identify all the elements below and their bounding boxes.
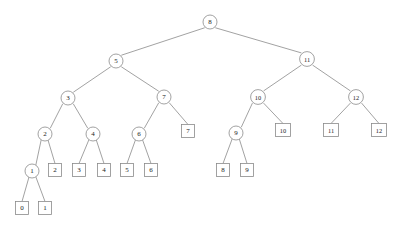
node-label: 12 <box>376 127 382 134</box>
tree-leaf-12-l12[interactable]: 12 <box>372 124 387 137</box>
tree-leaf-7-l7[interactable]: 7 <box>182 125 195 138</box>
node-label: 7 <box>186 127 190 135</box>
node-label: 7 <box>162 93 166 101</box>
tree-edge-n3-to-n2 <box>50 104 63 129</box>
tree-edge-n5-to-n7 <box>121 67 159 92</box>
tree-node-8-n8[interactable]: 8 <box>203 15 217 29</box>
tree-edge-n8-to-n5 <box>121 28 205 56</box>
node-label: 5 <box>125 166 129 174</box>
tree-node-7-n7[interactable]: 7 <box>157 90 171 104</box>
tree-leaf-10-l10[interactable]: 10 <box>276 124 291 137</box>
node-label: 8 <box>208 18 212 26</box>
tree-edge-n6-to-l6 <box>143 140 152 164</box>
tree-edge-n9-to-l8 <box>223 139 232 164</box>
node-label: 2 <box>53 166 57 174</box>
tree-node-11-n11[interactable]: 11 <box>300 52 315 67</box>
tree-leaf-4-l4[interactable]: 4 <box>98 164 111 177</box>
tree-edge-n7-to-n6 <box>144 103 159 129</box>
tree-node-2-n2[interactable]: 2 <box>38 127 52 141</box>
node-label: 4 <box>91 130 95 138</box>
tree-leaf-11-l11[interactable]: 11 <box>324 124 339 137</box>
tree-leaf-6-l6[interactable]: 6 <box>145 164 158 177</box>
node-label: 9 <box>234 129 238 137</box>
node-label: 6 <box>137 130 141 138</box>
node-label: 11 <box>328 127 334 134</box>
tree-leaf-9-l9[interactable]: 9 <box>241 164 254 177</box>
tree-leaf-5-l5[interactable]: 5 <box>121 164 134 177</box>
node-label: 11 <box>304 56 310 63</box>
tree-node-1-n1[interactable]: 1 <box>25 164 39 178</box>
tree-edge-n4-to-l4 <box>96 140 104 164</box>
tree-edge-n12-to-l12 <box>362 103 379 123</box>
tree-edge-n9-to-l9 <box>239 139 247 164</box>
tree-edge-n11-to-n12 <box>313 65 351 91</box>
node-label: 12 <box>353 94 359 101</box>
node-label: 8 <box>221 166 225 174</box>
tree-edge-n2-to-n1 <box>36 140 41 166</box>
node-layer: 8511371012246917101112234568901 <box>16 15 387 215</box>
binary-tree-figure: 8511371012246917101112234568901 <box>0 0 399 225</box>
node-label: 3 <box>66 94 70 102</box>
tree-node-12-n12[interactable]: 12 <box>349 90 364 105</box>
tree-canvas: 8511371012246917101112234568901 <box>0 0 399 225</box>
tree-edge-n11-to-n10 <box>264 65 302 91</box>
tree-node-9-n9[interactable]: 9 <box>229 126 243 140</box>
tree-edge-n1-to-l1 <box>36 177 45 202</box>
tree-edge-n1-to-l0 <box>22 177 29 202</box>
node-label: 2 <box>43 130 47 138</box>
tree-leaf-1-l1[interactable]: 1 <box>39 202 52 215</box>
tree-edge-n6-to-l5 <box>127 140 136 164</box>
node-label: 0 <box>20 204 24 212</box>
tree-edge-n7-to-l7 <box>169 103 188 125</box>
tree-leaf-8-l8[interactable]: 8 <box>217 164 230 177</box>
node-label: 3 <box>77 166 81 174</box>
node-label: 1 <box>43 204 47 212</box>
tree-node-4-n4[interactable]: 4 <box>86 127 100 141</box>
tree-edge-n4-to-l3 <box>79 140 89 164</box>
node-label: 6 <box>149 166 153 174</box>
tree-edge-n12-to-l11 <box>331 103 350 123</box>
node-label: 5 <box>114 57 118 65</box>
tree-node-6-n6[interactable]: 6 <box>132 127 146 141</box>
tree-node-3-n3[interactable]: 3 <box>61 91 75 105</box>
tree-edge-n5-to-n3 <box>73 67 111 93</box>
node-label: 4 <box>102 166 106 174</box>
tree-node-10-n10[interactable]: 10 <box>251 90 266 105</box>
node-label: 1 <box>30 167 34 175</box>
tree-leaf-3-l3[interactable]: 3 <box>73 164 86 177</box>
tree-leaf-0-l0[interactable]: 0 <box>16 202 29 215</box>
tree-node-5-n5[interactable]: 5 <box>109 54 123 68</box>
tree-edge-n10-to-n9 <box>241 103 252 127</box>
node-label: 9 <box>245 166 249 174</box>
tree-edge-n10-to-l10 <box>264 103 283 123</box>
tree-leaf-2-l2[interactable]: 2 <box>49 164 62 177</box>
node-label: 10 <box>280 127 286 134</box>
tree-edge-n8-to-n11 <box>215 28 301 53</box>
tree-edge-n3-to-n4 <box>73 104 88 129</box>
tree-edge-n2-to-l2 <box>48 140 55 164</box>
node-label: 10 <box>255 94 261 101</box>
